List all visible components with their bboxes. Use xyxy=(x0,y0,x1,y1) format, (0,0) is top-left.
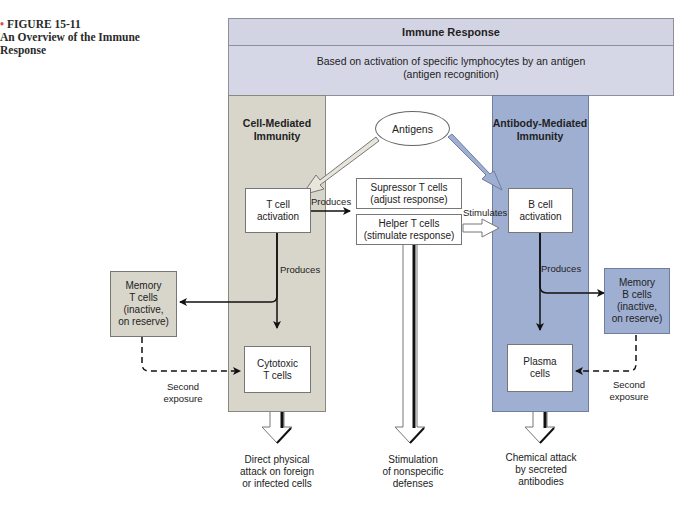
outcome-helper: Stimulation of nonspecific defenses xyxy=(368,454,458,490)
memory-b-line4: on reserve) xyxy=(612,313,663,325)
outcome-antibody-line1: Chemical attack xyxy=(495,452,587,464)
suppressor-t-line1: Supressor T cells xyxy=(371,182,448,194)
t-cell-activation-line1: T cell xyxy=(266,199,290,211)
suppressor-t-line2: (adjust response) xyxy=(370,194,447,206)
suppressor-t-cells-node: Supressor T cells (adjust response) xyxy=(356,178,462,209)
memory-t-line2: T cells xyxy=(129,292,158,304)
memory-b-cells-node: Memory B cells (inactive, on reserve) xyxy=(604,268,670,334)
outcome-antibody-line2: by secreted xyxy=(495,464,587,476)
b-cell-activation-line1: B cell xyxy=(528,199,552,211)
outcome-cell-line2: attack on foreign xyxy=(232,466,322,478)
t-cell-activation-line2: activation xyxy=(257,211,299,223)
memory-t-line4: on reserve) xyxy=(118,316,169,328)
helper-t-line2: (stimulate response) xyxy=(364,230,455,242)
helper-outcome-arrow xyxy=(395,245,425,443)
outcome-cell-line1: Direct physical xyxy=(232,454,322,466)
helper-t-cells-node: Helper T cells (stimulate response) xyxy=(356,214,462,245)
memory-b-line1: Memory xyxy=(619,277,655,289)
outcome-antibody-line3: antibodies xyxy=(495,476,587,488)
outcome-helper-line1: Stimulation xyxy=(368,454,458,466)
produces-label-b: Produces xyxy=(541,263,581,275)
second-exposure-left-line1: Second xyxy=(158,381,208,393)
second-exposure-left: Second exposure xyxy=(158,381,208,405)
diagram-connectors xyxy=(0,0,684,506)
produces-label-helper: Produces xyxy=(311,196,351,208)
outcome-helper-line2: of nonspecific xyxy=(368,466,458,478)
t-cell-activation-node: T cell activation xyxy=(245,188,311,233)
memory-t-line1: Memory xyxy=(125,280,161,292)
memory-b-line3: (inactive, xyxy=(617,301,657,313)
second-exposure-left-line2: exposure xyxy=(158,393,208,405)
helper-t-line1: Helper T cells xyxy=(379,218,440,230)
plasma-line1: Plasma xyxy=(523,356,556,368)
plasma-cells-node: Plasma cells xyxy=(507,344,573,392)
outcome-antibody-mediated: Chemical attack by secreted antibodies xyxy=(495,452,587,488)
memory-t-line3: (inactive, xyxy=(123,304,163,316)
plasma-line2: cells xyxy=(530,368,550,380)
cell-outcome-arrow xyxy=(262,412,292,443)
memory-t-cells-node: Memory T cells (inactive, on reserve) xyxy=(110,271,177,337)
outcome-helper-line3: defenses xyxy=(368,478,458,490)
antibody-outcome-arrow xyxy=(525,412,555,443)
outcome-cell-line3: or infected cells xyxy=(232,478,322,490)
antigens-node: Antigens xyxy=(375,111,450,146)
cytotoxic-t-line2: T cells xyxy=(263,370,292,382)
stimulates-label: Stimulates xyxy=(463,207,507,219)
cytotoxic-t-cells-node: Cytotoxic T cells xyxy=(244,346,311,393)
b-cell-activation-line2: activation xyxy=(519,211,561,223)
produces-label-t: Produces xyxy=(280,264,320,276)
memory-b-line2: B cells xyxy=(622,289,651,301)
cytotoxic-t-line1: Cytotoxic xyxy=(257,358,298,370)
outcome-cell-mediated: Direct physical attack on foreign or inf… xyxy=(232,454,322,490)
second-exposure-right-line1: Second xyxy=(604,379,654,391)
b-cell-activation-node: B cell activation xyxy=(508,188,573,233)
antigens-label: Antigens xyxy=(392,123,433,135)
second-exposure-right-line2: exposure xyxy=(604,391,654,403)
second-exposure-right: Second exposure xyxy=(604,379,654,403)
